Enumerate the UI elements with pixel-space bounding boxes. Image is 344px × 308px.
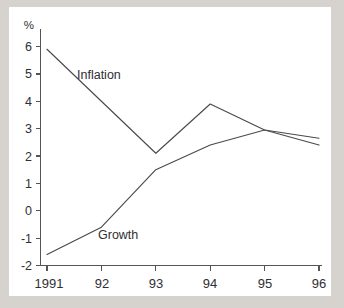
series-label-inflation: Inflation <box>77 68 121 82</box>
x-tick-label: 95 <box>258 276 272 291</box>
y-tick-label: 3 <box>25 122 32 136</box>
series-line-inflation <box>47 49 319 153</box>
series-line-growth <box>47 130 319 255</box>
x-axis-ticks <box>47 266 319 271</box>
x-tick-label: 96 <box>312 276 326 291</box>
series-label-growth: Growth <box>98 228 138 242</box>
y-tick-label: -1 <box>21 232 32 246</box>
y-tick-label: -2 <box>21 259 32 273</box>
line-chart: % 6 5 4 3 2 1 0 -1 -2 1991 92 93 94 95 9… <box>9 7 331 296</box>
x-tick-label: 93 <box>149 276 163 291</box>
y-tick-label: 4 <box>25 95 32 109</box>
y-tick-label: 6 <box>25 40 32 54</box>
y-tick-label: 2 <box>25 150 32 164</box>
x-tick-label: 94 <box>203 276 217 291</box>
y-axis-unit-label: % <box>24 19 34 31</box>
x-tick-label: 1991 <box>35 276 64 291</box>
y-tick-label: 5 <box>25 67 32 81</box>
y-tick-label: 0 <box>25 204 32 218</box>
y-tick-label: 1 <box>25 177 32 191</box>
chart-figure: % 6 5 4 3 2 1 0 -1 -2 1991 92 93 94 95 9… <box>9 7 331 296</box>
x-tick-label: 92 <box>95 276 109 291</box>
